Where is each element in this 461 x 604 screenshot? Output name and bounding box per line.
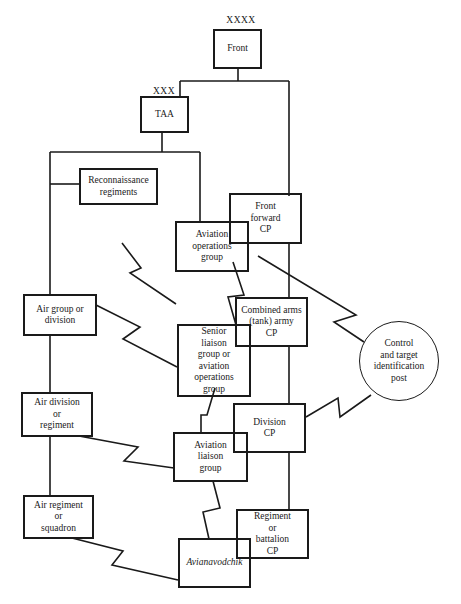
ctip-label-line-4: post — [374, 373, 425, 385]
node-front-label: Front — [227, 43, 248, 55]
airdiv-to-alg-zigzag — [79, 436, 174, 468]
aog-label-line-1: Aviation — [192, 229, 232, 241]
node-air-division-or-regiment: Air division or regiment — [21, 392, 93, 437]
node-taa-label: TAA — [155, 109, 174, 121]
divcp-to-ctip-zigzag — [306, 395, 371, 417]
senior-label-line-1: Senior — [194, 326, 234, 338]
aog-label-line-3: group — [192, 252, 232, 264]
node-control-target-identification-post: Control and target identification post — [359, 321, 439, 401]
recon-label-line-2: regiments — [88, 187, 149, 199]
airgroup-to-senior-zigzag — [96, 305, 177, 367]
node-front: Front — [213, 29, 262, 69]
ffcp-label-line-1: Front — [250, 201, 280, 213]
air-group-label-line-2: division — [36, 315, 84, 327]
cacp-label-line-1: Combined arms — [241, 305, 301, 317]
node-reconnaissance-regiments: Reconnaissance regiments — [79, 168, 158, 205]
node-senior-liaison-group: Senior liaison group or aviation operati… — [177, 324, 251, 397]
node-aviation-operations-group: Aviation operations group — [175, 221, 249, 272]
senior-label-line-6: group — [194, 384, 234, 396]
node-air-regiment-or-squadron: Air regiment or squadron — [23, 495, 94, 539]
air-group-label-line-1: Air group or — [36, 304, 84, 316]
node-taa: TAA — [140, 96, 189, 133]
front-echelon-marker: XXXX — [226, 15, 256, 25]
senior-label-line-2: liaison — [194, 338, 234, 350]
senior-label-line-4: aviation — [194, 361, 234, 373]
ffcp-label-line-2: forward — [250, 213, 280, 225]
alg-label-line-2: liaison — [194, 451, 227, 463]
alg-to-avianavodchik-zigzag — [203, 481, 220, 539]
ctip-label-line-2: and target — [374, 350, 425, 362]
alg-label-line-3: group — [194, 463, 227, 475]
senior-label-line-5: operations — [194, 372, 234, 384]
air-reg-label-line-3: squadron — [34, 523, 83, 535]
airreg-to-avianavodchik-zigzag — [72, 538, 178, 580]
air-div-label-line-2: or — [34, 409, 80, 421]
ffcp-label-line-3: CP — [250, 224, 280, 236]
air-div-label-line-1: Air division — [34, 397, 80, 409]
recon-label-line-1: Reconnaissance — [88, 175, 149, 187]
air-reg-label-line-1: Air regiment — [34, 500, 83, 512]
recon-to-aog-zigzag — [122, 243, 176, 304]
taa-echelon-marker: XXX — [152, 86, 176, 96]
divcp-label-line-1: Division — [253, 417, 286, 429]
ctip-label-line-1: Control — [374, 338, 425, 350]
regcp-label-line-3: battalion — [254, 534, 291, 546]
regcp-label-line-1: Regiment — [254, 511, 291, 523]
air-div-label-line-3: regiment — [34, 420, 80, 432]
regcp-label-line-2: or — [254, 523, 291, 535]
divcp-label-line-2: CP — [253, 428, 286, 440]
aog-label-line-2: operations — [192, 241, 232, 253]
node-aviation-liaison-group: Aviation liaison group — [173, 432, 248, 482]
ctip-label-line-3: identification — [374, 361, 425, 373]
alg-label-line-1: Aviation — [194, 440, 227, 452]
senior-label-line-3: group or — [194, 349, 234, 361]
node-avianavodchik: Avianavodchik — [178, 538, 251, 588]
regcp-label-line-4: CP — [254, 546, 291, 558]
node-air-group-or-division: Air group or division — [23, 294, 97, 336]
avianavodchik-label: Avianavodchik — [187, 557, 243, 569]
air-reg-label-line-2: or — [34, 511, 83, 523]
